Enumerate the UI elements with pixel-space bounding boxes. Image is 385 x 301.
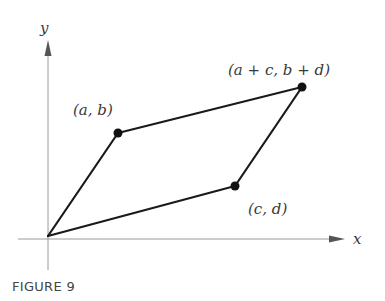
- x-axis: [18, 236, 345, 243]
- figure-caption: FIGURE 9: [12, 279, 75, 294]
- x-axis-label: x: [353, 230, 362, 248]
- y-axis-arrow-icon: [45, 40, 52, 56]
- point-a-b: [114, 129, 123, 138]
- x-axis-arrow-icon: [329, 236, 345, 243]
- label-c-d: (c, d): [248, 200, 287, 218]
- parallelogram-diagram: y x (a, b) (a + c, b + d) (c, d): [0, 0, 385, 301]
- point-a-plus-c-b-plus-d: [298, 83, 307, 92]
- label-a-plus-c-b-plus-d: (a + c, b + d): [228, 61, 330, 79]
- label-a-b: (a, b): [73, 101, 113, 119]
- point-c-d: [231, 182, 240, 191]
- y-axis-label: y: [39, 19, 49, 37]
